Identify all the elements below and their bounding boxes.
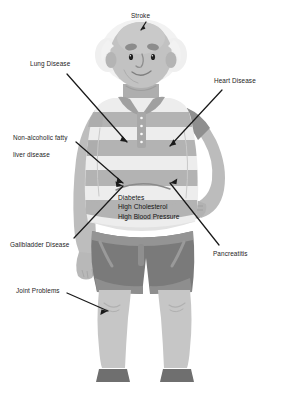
label-stroke: Stroke [131, 12, 150, 20]
label-joint-problems: Joint Problems [16, 287, 60, 295]
eye-right [151, 54, 155, 60]
label-gallbladder-disease: Gallbladder Disease [10, 241, 69, 249]
leg-left [98, 290, 132, 368]
eye-left [129, 54, 133, 60]
label-nafld: Non-alcoholic fatty liver disease [13, 126, 67, 167]
shirt-button-1 [140, 117, 143, 120]
callout-high-blood-pressure: High Blood Pressure [118, 212, 179, 221]
central-callout-block: Diabetes High Cholesterol High Blood Pre… [118, 193, 179, 221]
shirt-button-2 [140, 125, 143, 128]
label-pancreatitis: Pancreatitis [213, 250, 248, 258]
shirt-button-3 [140, 133, 143, 136]
eye-highlight-right [152, 55, 153, 56]
label-heart-disease: Heart Disease [214, 77, 256, 85]
label-nafld-line-1: Non-alcoholic fatty [13, 134, 67, 142]
ear-right [166, 52, 177, 68]
callout-high-cholesterol: High Cholesterol [118, 202, 179, 211]
shorts-fly [138, 244, 144, 266]
shirt-button-4 [140, 141, 143, 144]
eye-highlight-left [130, 55, 131, 56]
label-lung-disease: Lung Disease [30, 60, 70, 68]
shoe-right [160, 369, 194, 382]
stripe-sleeve-left-1 [88, 112, 104, 127]
ear-left [106, 52, 117, 68]
leg-right [158, 290, 192, 368]
infographic-canvas: Stroke Lung Disease Heart Disease Non-al… [0, 0, 282, 394]
shoe-left [96, 369, 130, 382]
callout-diabetes: Diabetes [118, 193, 179, 202]
label-nafld-line-2: liver disease [13, 151, 67, 159]
